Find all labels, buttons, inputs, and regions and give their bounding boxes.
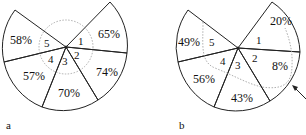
index-a-1: 1 (78, 35, 84, 47)
index-a-5: 5 (44, 37, 50, 49)
index-a-3: 3 (62, 55, 68, 67)
index-b-1: 1 (256, 34, 262, 46)
value-a-4: 57% (23, 69, 45, 83)
diagram-a: 58% 57% 70% 74% 65% 5 4 3 2 1 a (2, 2, 127, 131)
index-b-3: 3 (235, 59, 241, 71)
index-a-2: 2 (74, 49, 80, 61)
panel-label-a: a (6, 119, 11, 131)
value-a-1: 65% (98, 27, 120, 41)
diagram-b: 49% 56% 43% 8% 20% 5 4 3 2 1 b (176, 2, 306, 131)
value-b-2: 8% (272, 59, 288, 73)
value-b-3: 43% (231, 91, 253, 105)
value-b-5: 49% (178, 35, 200, 49)
value-b-1: 20% (270, 14, 292, 28)
value-a-2: 74% (96, 65, 118, 79)
index-a-4: 4 (48, 53, 54, 65)
index-b-4: 4 (220, 55, 226, 67)
value-a-5: 58% (10, 33, 32, 47)
index-b-5: 5 (209, 36, 215, 48)
value-b-4: 56% (193, 72, 215, 86)
center-dot-b (237, 47, 240, 50)
sector-diagrams: 58% 57% 70% 74% 65% 5 4 3 2 1 a 49% 56% … (0, 0, 306, 135)
index-b-2: 2 (252, 52, 258, 64)
value-a-3: 70% (58, 86, 80, 100)
panel-label-b: b (179, 119, 185, 131)
center-dot-a (65, 46, 68, 49)
